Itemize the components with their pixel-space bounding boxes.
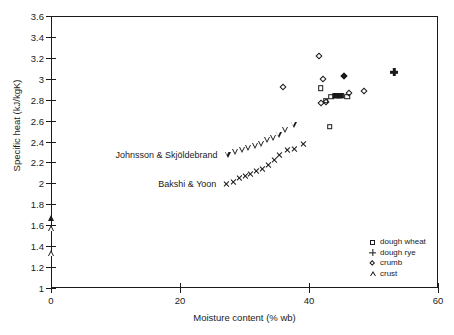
x-tick-mark-inner — [51, 283, 52, 288]
legend-item-crumb: crumb — [367, 258, 426, 269]
data-point — [346, 91, 351, 96]
x-tick-mark — [438, 288, 439, 293]
x-tick-mark — [51, 288, 52, 293]
y-tick-label: 2 — [39, 178, 44, 189]
legend-item-dough-wheat: dough wheat — [367, 237, 426, 248]
legend-item-label: dough rye — [380, 248, 416, 259]
data-point — [245, 145, 251, 151]
square-filled-marker-icon — [337, 93, 343, 99]
y-tick-label: 2.4 — [31, 136, 44, 147]
series-annotation: Bakshi & Yoon — [158, 179, 216, 189]
data-point — [317, 54, 322, 59]
diamond-filled-marker-icon — [341, 72, 348, 79]
y-tick-mark-inner — [51, 79, 56, 80]
triangle-open-marker-icon — [48, 225, 54, 231]
data-point — [390, 68, 398, 76]
chart-figure: 11.21.41.61.822.22.42.62.833.23.43.6 020… — [0, 0, 454, 335]
data-point — [276, 152, 283, 159]
x-tick-label: 40 — [304, 295, 315, 306]
data-point — [223, 180, 230, 187]
data-point — [282, 127, 288, 133]
y-tick-label: 2.8 — [31, 94, 44, 105]
x-marker-icon — [223, 180, 230, 187]
triangle-open-legend-icon — [367, 271, 378, 276]
data-point — [323, 99, 328, 104]
data-point — [361, 89, 366, 94]
y-tick-label: 1.6 — [31, 220, 44, 231]
square-open-marker-icon — [318, 85, 324, 91]
data-point — [291, 122, 297, 128]
diamond-open-marker-icon — [316, 53, 323, 60]
square-open-legend-icon — [367, 240, 378, 245]
triangle-down-open-marker-icon — [276, 132, 282, 138]
legend-item-label: crumb — [380, 258, 402, 269]
legend-item-dough-rye: dough rye — [367, 248, 426, 259]
triangle-down-open-marker-icon — [252, 143, 258, 149]
series-annotation: Johnsson & Skjöldebrand — [116, 150, 218, 160]
triangle-down-open-marker-icon — [239, 147, 245, 153]
y-tick-mark-inner — [51, 37, 56, 38]
y-tick-mark-inner — [51, 16, 56, 17]
triangle-down-open-marker-icon — [291, 122, 297, 128]
data-point — [337, 93, 343, 99]
triangle-filled-marker-icon — [48, 215, 54, 221]
y-tick-label: 3.2 — [31, 52, 44, 63]
triangle-down-open-marker-icon — [225, 152, 231, 158]
y-tick-label: 1.4 — [31, 241, 44, 252]
x-tick-mark-inner — [180, 283, 181, 288]
y-tick-label: 1 — [39, 283, 44, 294]
diamond-open-marker-icon — [280, 84, 287, 91]
data-point — [48, 215, 54, 221]
y-tick-label: 1.8 — [31, 199, 44, 210]
data-point — [318, 85, 324, 91]
y-tick-mark-inner — [51, 121, 56, 122]
plus-legend-icon — [367, 249, 378, 256]
triangle-open-marker-icon — [48, 250, 54, 256]
x-tick-mark-inner — [438, 283, 439, 288]
data-point — [300, 141, 307, 148]
data-point — [291, 145, 298, 152]
data-point — [281, 85, 286, 90]
data-point — [276, 132, 282, 138]
data-point — [48, 225, 54, 231]
x-marker-icon — [291, 145, 298, 152]
x-axis-label: Moisture content (% wb) — [51, 312, 438, 323]
y-tick-mark-inner — [51, 142, 56, 143]
legend-item-crust: crust — [367, 269, 426, 280]
y-tick-label: 3.4 — [31, 31, 44, 42]
legend-item-label: dough wheat — [380, 237, 426, 248]
data-point — [342, 73, 347, 78]
triangle-down-open-marker-icon — [282, 127, 288, 133]
y-tick-mark-inner — [51, 267, 56, 268]
x-marker-icon — [300, 141, 307, 148]
data-point — [284, 147, 291, 154]
data-point — [225, 152, 231, 158]
plus-filled-marker-icon — [390, 68, 398, 76]
y-tick-mark-inner — [51, 246, 56, 247]
y-axis-label: Specific heat (kJ/kgK) — [11, 26, 22, 226]
y-tick-mark-inner — [51, 58, 56, 59]
legend-item-label: crust — [380, 269, 397, 280]
x-tick-label: 20 — [175, 295, 186, 306]
data-point — [327, 124, 333, 130]
y-tick-mark-inner — [51, 204, 56, 205]
y-tick-mark-inner — [51, 100, 56, 101]
x-tick-mark — [180, 288, 181, 293]
x-tick-label: 0 — [48, 295, 53, 306]
diamond-open-marker-icon — [345, 90, 352, 97]
data-point — [239, 147, 245, 153]
chart-legend: dough wheatdough ryecrumbcrust — [367, 237, 426, 279]
x-marker-icon — [276, 152, 283, 159]
triangle-down-open-marker-icon — [245, 145, 251, 151]
x-tick-mark — [309, 288, 310, 293]
y-tick-mark-inner — [51, 183, 56, 184]
square-open-marker-icon — [327, 124, 333, 130]
y-tick-mark-inner — [51, 162, 56, 163]
diamond-open-legend-icon — [367, 261, 378, 265]
x-marker-icon — [284, 147, 291, 154]
y-tick-label: 3 — [39, 73, 44, 84]
y-tick-label: 3.6 — [31, 11, 44, 22]
y-tick-label: 1.2 — [31, 262, 44, 273]
y-tick-label: 2.2 — [31, 157, 44, 168]
data-point — [48, 250, 54, 256]
